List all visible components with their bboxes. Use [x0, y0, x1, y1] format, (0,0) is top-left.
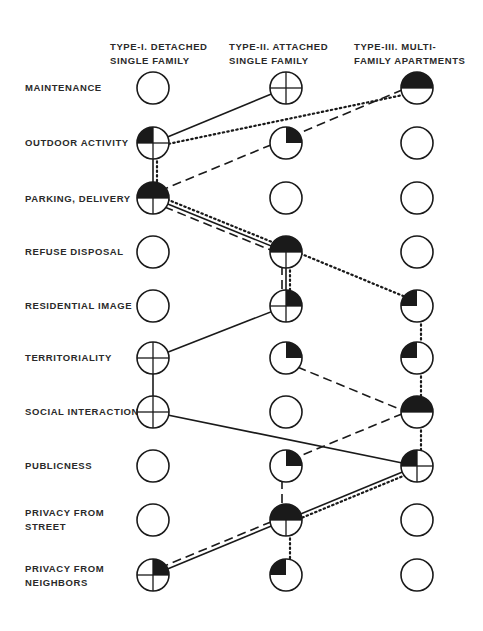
symbol-quarter-tl-icon — [270, 559, 302, 591]
symbol-quarter-tl-icon — [401, 342, 433, 374]
symbol-half-t-icon — [137, 182, 169, 214]
dashed-connection-line — [151, 139, 284, 194]
symbol-empty-icon — [270, 182, 302, 214]
symbol-empty-icon — [137, 504, 169, 536]
symbol-empty-icon — [401, 504, 433, 536]
symbol-quarter-tr-icon — [270, 127, 302, 159]
dotted-connection-line — [288, 470, 419, 524]
solid-connection-line — [153, 88, 286, 143]
symbol-empty-icon — [270, 396, 302, 428]
symbol-half-icon — [401, 72, 433, 104]
symbol-empty-icon — [137, 72, 169, 104]
symbol-empty-icon — [137, 450, 169, 482]
symbol-cross-icon — [137, 342, 169, 374]
symbol-quarter-tr-icon — [270, 450, 302, 482]
symbol-cross-icon — [137, 396, 169, 428]
symbol-empty-icon — [401, 127, 433, 159]
solid-connection-line — [153, 520, 286, 575]
dashed-connection-line — [284, 362, 415, 416]
symbol-quarter-tr-icon — [270, 342, 302, 374]
symbol-empty-icon — [401, 182, 433, 214]
symbol-cross-tr-icon — [270, 290, 302, 322]
assessment-symbols — [137, 72, 433, 591]
symbol-cross-tl-icon — [137, 127, 169, 159]
dashed-connection-line — [284, 408, 415, 462]
dashed-connection-line — [151, 202, 284, 256]
symbol-half-t-icon — [270, 236, 302, 268]
symbol-cross-tl-icon — [401, 450, 433, 482]
symbol-cross-icon — [270, 72, 302, 104]
symbol-quarter-tl-icon — [401, 290, 433, 322]
dotted-connection-line — [288, 248, 419, 302]
symbol-empty-icon — [401, 559, 433, 591]
solid-connection-line — [153, 198, 286, 252]
dashed-connection-line — [284, 84, 415, 139]
dashed-connection-line — [151, 516, 284, 571]
symbol-empty-icon — [137, 290, 169, 322]
symbol-cross-tr-icon — [137, 559, 169, 591]
solid-connection-line — [153, 306, 286, 358]
relationship-diagram — [0, 0, 483, 631]
symbol-empty-icon — [137, 236, 169, 268]
solid-connection-line — [286, 466, 417, 520]
dotted-connection-line — [155, 194, 288, 248]
symbol-half-icon — [401, 396, 433, 428]
symbol-half-t-icon — [270, 504, 302, 536]
symbol-empty-icon — [401, 236, 433, 268]
